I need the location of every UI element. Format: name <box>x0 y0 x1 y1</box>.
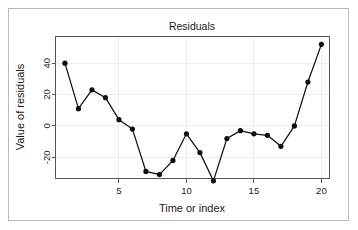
data-point <box>89 87 94 92</box>
y-tick-label: -20 <box>41 150 52 164</box>
data-point <box>251 131 256 136</box>
data-point <box>305 79 310 84</box>
residuals-chart: 5101520 -2002040 Residuals Time or index… <box>0 0 358 230</box>
y-axis-tick-labels: -2002040 <box>41 58 52 164</box>
data-point <box>130 126 135 131</box>
y-axis-title: Value of residuals <box>14 63 26 150</box>
data-point <box>76 106 81 111</box>
x-tick-label: 5 <box>116 185 121 196</box>
chart-title: Residuals <box>169 20 215 32</box>
data-point <box>278 144 283 149</box>
y-tick-label: 20 <box>41 89 52 100</box>
data-point <box>197 150 202 155</box>
data-point <box>62 61 67 66</box>
data-point <box>103 95 108 100</box>
data-point <box>116 117 121 122</box>
x-tick-label: 10 <box>181 185 192 196</box>
data-point <box>211 178 216 183</box>
figure-container: 5101520 -2002040 Residuals Time or index… <box>0 0 358 230</box>
x-tick-label: 15 <box>249 185 260 196</box>
x-axis-tick-labels: 5101520 <box>116 185 326 196</box>
x-axis-ticks <box>119 179 321 183</box>
y-tick-label: 40 <box>41 58 52 69</box>
data-point <box>319 42 324 47</box>
data-point <box>143 169 148 174</box>
data-point <box>184 131 189 136</box>
data-point <box>292 123 297 128</box>
data-point <box>265 133 270 138</box>
residuals-line <box>65 44 321 181</box>
gridlines-group <box>56 37 330 179</box>
data-point <box>170 158 175 163</box>
data-point <box>157 172 162 177</box>
data-point <box>224 136 229 141</box>
x-axis-title: Time or index <box>159 202 226 214</box>
y-tick-label: 0 <box>41 123 52 128</box>
x-tick-label: 20 <box>316 185 327 196</box>
data-point <box>238 128 243 133</box>
